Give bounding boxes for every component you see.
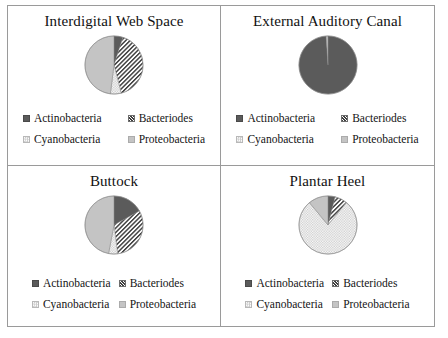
legend-label: Cyanobacteria xyxy=(34,133,100,145)
legend: ActinobacteriaBacteriodesCyanobacteriaPr… xyxy=(8,112,220,145)
cyanobacteria-swatch-icon xyxy=(245,301,252,308)
proteobacteria-swatch-icon xyxy=(119,301,126,308)
legend-label: Actinobacteria xyxy=(247,112,315,124)
cyanobacteria-swatch-icon xyxy=(236,136,243,143)
pie-chart-external-auditory-canal xyxy=(297,34,359,96)
pie-chart-plantar-heel xyxy=(297,194,359,256)
legend-label: Proteobacteria xyxy=(343,298,409,310)
panel-external-auditory-canal: External Auditory Canal ActinobacteriaBa… xyxy=(221,6,434,166)
legend-label: Proteobacteria xyxy=(352,133,418,145)
legend-item-actinobacteria: Actinobacteria xyxy=(32,277,111,289)
legend-item-cyanobacteria: Cyanobacteria xyxy=(23,133,102,145)
proteobacteria-swatch-icon xyxy=(128,136,135,143)
actinobacteria-swatch-icon xyxy=(23,115,30,122)
legend-item-cyanobacteria: Cyanobacteria xyxy=(32,298,111,310)
bacteriodes-swatch-icon xyxy=(119,280,126,287)
legend-label: Bacteriodes xyxy=(343,277,397,289)
actinobacteria-swatch-icon xyxy=(245,280,252,287)
legend-item-actinobacteria: Actinobacteria xyxy=(236,112,315,124)
pie-chart-interdigital-web-space xyxy=(83,34,145,96)
legend-item-cyanobacteria: Cyanobacteria xyxy=(245,298,324,310)
legend-label: Bacteriodes xyxy=(352,112,406,124)
legend-item-proteobacteria: Proteobacteria xyxy=(128,133,205,145)
legend-label: Cyanobacteria xyxy=(247,133,313,145)
legend-label: Cyanobacteria xyxy=(256,298,322,310)
legend-label: Proteobacteria xyxy=(139,133,205,145)
cyanobacteria-swatch-icon xyxy=(23,136,30,143)
panel-title: Buttock xyxy=(90,173,138,190)
legend-item-bacteriodes: Bacteriodes xyxy=(332,277,409,289)
bacteriodes-swatch-icon xyxy=(332,280,339,287)
panel-buttock: Buttock ActinobacteriaBacteriodesCyanoba… xyxy=(8,166,221,326)
pie-chart-buttock xyxy=(83,194,145,256)
panel-plantar-heel: Plantar Heel ActinobacteriaBacteriodesCy… xyxy=(221,166,434,326)
legend-item-bacteriodes: Bacteriodes xyxy=(119,277,196,289)
legend-item-proteobacteria: Proteobacteria xyxy=(119,298,196,310)
legend-label: Proteobacteria xyxy=(130,298,196,310)
panel-title: Interdigital Web Space xyxy=(44,13,183,30)
actinobacteria-swatch-icon xyxy=(32,280,39,287)
legend-item-proteobacteria: Proteobacteria xyxy=(332,298,409,310)
legend: ActinobacteriaBacteriodesCyanobacteriaPr… xyxy=(221,277,434,310)
legend-label: Actinobacteria xyxy=(34,112,102,124)
panel-interdigital-web-space: Interdigital Web Space ActinobacteriaBac… xyxy=(8,6,221,166)
legend-item-bacteriodes: Bacteriodes xyxy=(341,112,418,124)
panel-title: Plantar Heel xyxy=(290,173,366,190)
legend: ActinobacteriaBacteriodesCyanobacteriaPr… xyxy=(8,277,220,310)
pie-slice-proteobacteria xyxy=(85,36,114,94)
cyanobacteria-swatch-icon xyxy=(32,301,39,308)
legend-item-bacteriodes: Bacteriodes xyxy=(128,112,205,124)
actinobacteria-swatch-icon xyxy=(236,115,243,122)
legend-item-proteobacteria: Proteobacteria xyxy=(341,133,418,145)
pie-slice-proteobacteria xyxy=(85,196,114,254)
panel-title: External Auditory Canal xyxy=(253,13,402,30)
legend-label: Bacteriodes xyxy=(130,277,184,289)
bacteriodes-swatch-icon xyxy=(341,115,348,122)
legend-item-actinobacteria: Actinobacteria xyxy=(23,112,102,124)
proteobacteria-swatch-icon xyxy=(332,301,339,308)
pie-chart-figure: Interdigital Web Space ActinobacteriaBac… xyxy=(7,5,435,327)
legend-label: Actinobacteria xyxy=(256,277,324,289)
legend-label: Actinobacteria xyxy=(43,277,111,289)
legend: ActinobacteriaBacteriodesCyanobacteriaPr… xyxy=(221,112,434,145)
legend-label: Bacteriodes xyxy=(139,112,193,124)
bacteriodes-swatch-icon xyxy=(128,115,135,122)
legend-item-actinobacteria: Actinobacteria xyxy=(245,277,324,289)
proteobacteria-swatch-icon xyxy=(341,136,348,143)
legend-label: Cyanobacteria xyxy=(43,298,109,310)
legend-item-cyanobacteria: Cyanobacteria xyxy=(236,133,315,145)
